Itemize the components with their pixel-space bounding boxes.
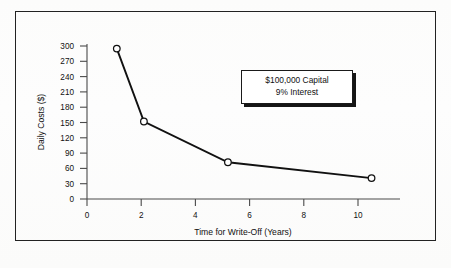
- data-point-marker: [141, 118, 148, 125]
- data-series-line: [117, 49, 372, 179]
- x-tick-label: 4: [193, 211, 198, 220]
- y-tick-label: 120: [60, 134, 74, 143]
- data-point-marker: [114, 45, 121, 52]
- x-tick-label: 10: [353, 211, 363, 220]
- y-tick-label: 270: [60, 57, 74, 66]
- x-axis-title: Time for Write-Off (Years): [194, 227, 292, 237]
- y-tick-label: 150: [60, 119, 74, 128]
- data-point-marker: [225, 159, 232, 166]
- plot-area: 0306090120150180210240270300 0246810 Dai…: [0, 0, 451, 268]
- annotation-line-capital: $100,000 Capital: [265, 76, 328, 86]
- x-tick-label: 2: [139, 211, 144, 220]
- figure-page: 0306090120150180210240270300 0246810 Dai…: [0, 0, 451, 268]
- y-tick-label: 30: [65, 180, 75, 189]
- y-axis-title: Daily Costs ($): [36, 94, 46, 150]
- y-tick-label: 60: [65, 164, 75, 173]
- y-tick-label: 0: [69, 195, 74, 204]
- annotation-callout: $100,000 Capital 9% Interest: [241, 70, 353, 104]
- data-point-markers: [114, 45, 375, 181]
- y-tick-label: 210: [60, 88, 74, 97]
- annotation-line-interest: 9% Interest: [276, 88, 318, 98]
- y-tick-label: 180: [60, 103, 74, 112]
- y-tick-label: 300: [60, 42, 74, 51]
- x-axis-ticks: 0246810: [85, 199, 363, 220]
- x-tick-label: 0: [85, 211, 90, 220]
- data-point-marker: [368, 175, 375, 182]
- x-tick-label: 8: [302, 211, 307, 220]
- x-tick-label: 6: [247, 211, 252, 220]
- line-chart: 0306090120150180210240270300 0246810 Dai…: [0, 0, 451, 268]
- y-tick-label: 90: [65, 149, 75, 158]
- y-axis-ticks: 0306090120150180210240270300: [60, 42, 87, 204]
- y-tick-label: 240: [60, 73, 74, 82]
